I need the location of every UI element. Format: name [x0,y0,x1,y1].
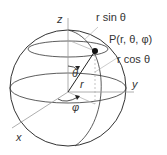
r-sin-theta-label: r sin θ [96,11,126,23]
x-axis [12,92,68,128]
x-axis-label: x [15,131,22,143]
theta-label: θ [72,67,78,79]
phi-label: φ [72,101,79,113]
leader-r-sin [84,27,98,40]
r-label: r [80,78,85,90]
phi-arrow-icon [75,95,80,100]
spherical-coordinates-diagram: z y x r sin θ P(r, θ, φ) r cos θ θ r φ [0,0,167,155]
z-axis-label: z [56,13,63,25]
point-p-label: P(r, θ, φ) [109,33,152,45]
meridian-curve [68,30,101,146]
y-axis-label: y [131,78,139,90]
r-cos-theta-label: r cos θ [117,53,150,65]
point-p [92,48,98,54]
